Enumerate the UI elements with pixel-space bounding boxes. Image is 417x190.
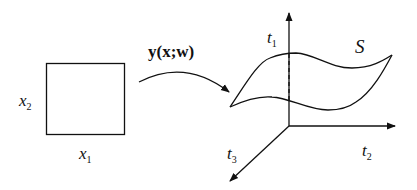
t3-axis-label: t3 xyxy=(227,145,237,165)
x2-axis-label: x2 xyxy=(19,92,32,112)
input-domain-square xyxy=(47,64,125,135)
surface-bottom-edge xyxy=(230,97,356,110)
mapping-label: y(x;w) xyxy=(148,43,194,60)
mapping-arrow xyxy=(139,72,229,92)
surface-right-edge xyxy=(356,55,392,102)
t2-axis-label: t2 xyxy=(362,142,372,162)
diagram-graphics xyxy=(0,0,417,190)
surface-label: S xyxy=(355,37,365,56)
diagram-canvas: x2 x1 y(x;w) t1 t2 t3 S xyxy=(0,0,417,190)
t1-axis-label: t1 xyxy=(267,29,277,49)
x1-axis-label: x1 xyxy=(79,145,92,165)
t3-axis-arrow xyxy=(230,126,289,181)
